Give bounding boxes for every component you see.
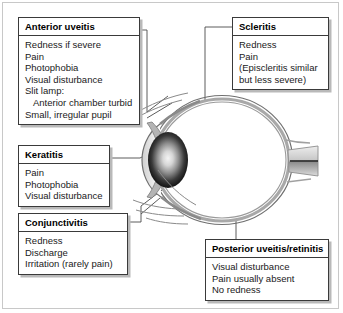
symptom-item: Visual disturbance	[212, 261, 322, 273]
symptom-item: Pain	[25, 51, 133, 63]
figure-canvas: Anterior uveitis Redness if severe Pain …	[0, 0, 343, 313]
symptom-item: Discharge	[25, 247, 121, 259]
symptom-item: Photophobia	[25, 179, 103, 191]
callout-title: Keratitis	[19, 146, 109, 164]
symptom-item: Pain	[239, 51, 322, 63]
callout-body: Redness Discharge Irritation (rarely pai…	[19, 232, 127, 274]
symptom-item: Visual disturbance	[25, 74, 133, 86]
symptom-item: No redness	[212, 284, 322, 296]
callout-keratitis[interactable]: Keratitis Pain Photophobia Visual distur…	[18, 145, 110, 207]
callout-scleritis[interactable]: Scleritis Redness Pain (Episcleritis sim…	[232, 17, 329, 90]
symptom-item: but less severe)	[239, 74, 322, 86]
symptom-item: (Episcleritis similar	[239, 62, 322, 74]
symptom-item: Anterior chamber turbid	[25, 97, 133, 109]
callout-body: Pain Photophobia Visual disturbance	[19, 164, 109, 206]
callout-title: Conjunctivitis	[19, 214, 127, 232]
symptom-item: Pain usually absent	[212, 273, 322, 285]
symptom-item: Redness if severe	[25, 39, 133, 51]
callout-title: Scleritis	[233, 18, 328, 36]
callout-title: Anterior uveitis	[19, 18, 139, 36]
muscle-insertion-lower	[287, 179, 311, 182]
symptom-item: Small, irregular pupil	[25, 109, 133, 121]
symptom-item: Photophobia	[25, 62, 133, 74]
callout-title: Posterior uveitis/retinitis	[206, 240, 328, 258]
symptom-item: Redness	[239, 39, 322, 51]
callout-body: Redness Pain (Episcleritis similar but l…	[233, 36, 328, 89]
conjunctiva-fold-3	[146, 218, 188, 224]
callout-anterior-uveitis[interactable]: Anterior uveitis Redness if severe Pain …	[18, 17, 140, 125]
callout-body: Redness if severe Pain Photophobia Visua…	[19, 36, 139, 124]
symptom-item: Slit lamp:	[25, 85, 133, 97]
symptom-item: Pain	[25, 167, 103, 179]
symptom-item: Irritation (rarely pain)	[25, 258, 121, 270]
conjunctiva-fold-2	[136, 210, 184, 216]
symptom-item: Redness	[25, 235, 121, 247]
callout-body: Visual disturbance Pain usually absent N…	[206, 258, 328, 300]
symptom-item: Visual disturbance	[25, 190, 103, 202]
callout-conjunctivitis[interactable]: Conjunctivitis Redness Discharge Irritat…	[18, 213, 128, 275]
lens-iris	[148, 132, 188, 188]
callout-posterior-uveitis-retinitis[interactable]: Posterior uveitis/retinitis Visual distu…	[205, 239, 329, 301]
